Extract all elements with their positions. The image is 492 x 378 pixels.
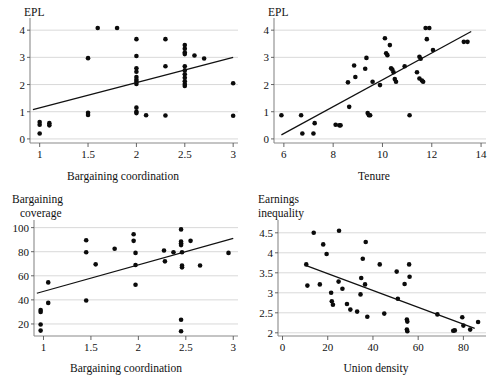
panel-2-points bbox=[279, 26, 470, 136]
data-point bbox=[299, 113, 304, 118]
data-point bbox=[347, 105, 352, 110]
data-point bbox=[359, 276, 364, 281]
panel-earnings-inequality-vs-union-density: Earnings inequality 22.533.544.502040608… bbox=[246, 189, 492, 378]
panel-1-fit-line bbox=[33, 57, 233, 109]
data-point bbox=[202, 56, 207, 61]
data-point bbox=[46, 301, 51, 306]
panel-2-xtick: 14 bbox=[476, 148, 488, 160]
data-point bbox=[162, 248, 167, 253]
data-point bbox=[46, 280, 51, 285]
panel-2-xtick: 10 bbox=[377, 148, 389, 160]
data-point bbox=[38, 322, 43, 327]
data-point bbox=[231, 81, 236, 86]
data-point bbox=[305, 283, 310, 288]
panel-1-regression-line bbox=[33, 57, 233, 109]
data-point bbox=[378, 83, 383, 88]
panel-3-ticklabels: 2040608010011.522.53 bbox=[13, 222, 237, 353]
data-point bbox=[133, 251, 138, 256]
data-point bbox=[279, 113, 284, 118]
data-point bbox=[115, 26, 120, 31]
data-point bbox=[131, 232, 136, 237]
panel-4-ytick: 4.5 bbox=[259, 227, 273, 239]
data-point bbox=[171, 250, 176, 255]
data-point bbox=[84, 298, 89, 303]
data-point bbox=[329, 291, 334, 296]
data-point bbox=[163, 259, 168, 264]
data-point bbox=[324, 252, 329, 257]
data-point bbox=[163, 64, 168, 69]
data-point bbox=[368, 113, 373, 118]
data-point bbox=[460, 315, 465, 320]
data-point bbox=[382, 311, 387, 316]
data-point bbox=[86, 56, 91, 61]
panel-4-x-axis-label: Union density bbox=[344, 362, 409, 375]
data-point bbox=[383, 36, 388, 41]
data-point bbox=[84, 238, 89, 243]
data-point bbox=[340, 287, 345, 292]
panel-1-ytick: 3 bbox=[20, 51, 26, 63]
panel-1-xtick: 2 bbox=[134, 148, 140, 160]
panel-2-ytick: 1 bbox=[264, 106, 270, 118]
panel-4-ytick: 4 bbox=[268, 247, 274, 259]
panel-1-points bbox=[37, 26, 235, 136]
data-point bbox=[84, 250, 89, 255]
panel-4-y-axis-label-line1: Earnings bbox=[258, 193, 299, 206]
panel-1-ytick: 4 bbox=[20, 24, 26, 36]
panel-3-svg: Bargaining coverage 2040608010011.522.53… bbox=[0, 189, 246, 378]
data-point bbox=[311, 231, 316, 236]
data-point bbox=[358, 292, 363, 297]
panel-4-ytick: 3.5 bbox=[259, 267, 273, 279]
data-point bbox=[321, 242, 326, 247]
data-point bbox=[427, 26, 432, 31]
panel-1-xtick: 2.5 bbox=[178, 148, 192, 160]
data-point bbox=[188, 239, 193, 244]
panel-2-xtick: 8 bbox=[330, 148, 336, 160]
panel-2-fit-line bbox=[281, 32, 471, 135]
data-point bbox=[231, 114, 236, 119]
data-point bbox=[134, 69, 139, 74]
panel-4-xtick: 80 bbox=[458, 341, 470, 353]
panel-4-ytick: 2 bbox=[268, 327, 274, 339]
data-point bbox=[348, 307, 353, 312]
data-point bbox=[453, 328, 458, 333]
data-point bbox=[95, 26, 100, 31]
panel-3-axes bbox=[31, 220, 238, 340]
data-point bbox=[134, 105, 139, 110]
panel-4-axes bbox=[275, 220, 486, 340]
panel-3-ytick: 100 bbox=[13, 222, 30, 234]
panel-3-ytick: 60 bbox=[18, 270, 30, 282]
panel-2-svg: EPL 0123468101214 Tenure bbox=[246, 0, 492, 189]
data-point bbox=[355, 309, 360, 314]
panel-bargaining-coverage-vs-coordination: Bargaining coverage 2040608010011.522.53… bbox=[0, 189, 246, 378]
data-point bbox=[407, 275, 412, 280]
panel-2-ytick: 2 bbox=[264, 79, 270, 91]
panel-3-y-axis-label-line1: Bargaining bbox=[12, 193, 63, 206]
panel-3-ytick: 20 bbox=[18, 318, 30, 330]
panel-epl-vs-tenure: EPL 0123468101214 Tenure bbox=[246, 0, 492, 189]
data-point bbox=[407, 113, 412, 118]
data-point bbox=[336, 279, 341, 284]
panel-3-xtick: 1 bbox=[41, 341, 47, 353]
data-point bbox=[476, 320, 481, 325]
data-point bbox=[179, 329, 184, 334]
panel-4-xtick: 60 bbox=[413, 341, 425, 353]
data-point bbox=[405, 319, 410, 324]
panel-4-gridlines bbox=[278, 233, 486, 333]
data-point bbox=[360, 257, 365, 262]
panel-1-ticklabels: 0123411.522.53 bbox=[20, 24, 237, 160]
data-point bbox=[37, 131, 42, 136]
data-point bbox=[144, 113, 149, 118]
data-point bbox=[370, 80, 375, 85]
data-point bbox=[163, 113, 168, 118]
panel-1-xtick: 1 bbox=[37, 148, 43, 160]
panel-3-ytick: 80 bbox=[18, 246, 30, 258]
panel-3-gridlines bbox=[34, 228, 238, 324]
data-point bbox=[405, 329, 410, 334]
data-point bbox=[134, 37, 139, 42]
panel-1-y-axis-label: EPL bbox=[24, 6, 44, 18]
panel-3-x-axis-label: Bargaining coordination bbox=[70, 362, 182, 375]
panel-1-xtick: 3 bbox=[230, 148, 236, 160]
data-point bbox=[363, 282, 368, 287]
panel-3-xtick: 2 bbox=[136, 341, 142, 353]
data-point bbox=[182, 52, 187, 57]
